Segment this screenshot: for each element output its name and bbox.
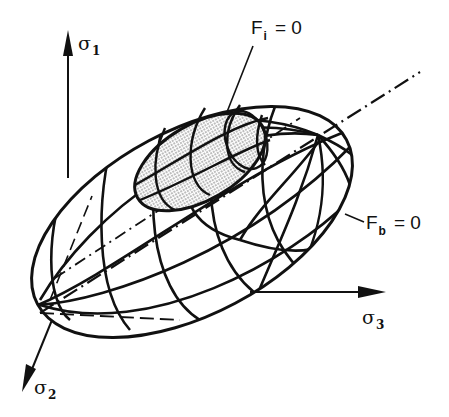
outer-surface-leader (345, 214, 364, 222)
sigma2-label: σ2 (34, 378, 56, 397)
arrowhead-up-icon (63, 30, 73, 56)
outer-failure-surface (0, 59, 390, 386)
outer-surface-label: Fb= 0 (366, 213, 421, 232)
outer-surface-symbol: F (366, 212, 378, 233)
sigma3-label: σ3 (362, 308, 384, 327)
sigma1-symbol: σ (78, 32, 91, 54)
sigma3-axis (250, 286, 386, 298)
sigma3-subscript: 3 (376, 318, 384, 332)
sigma2-symbol: σ (34, 376, 47, 398)
inner-surface-subscript: i (264, 29, 267, 43)
sigma3-symbol: σ (362, 306, 375, 328)
sigma1-label: σ1 (78, 34, 100, 53)
hydrostatic-axis (40, 72, 420, 320)
diagram-drawing (0, 0, 449, 417)
sigma1-subscript: 1 (92, 44, 100, 58)
inner-surface-equation: = 0 (275, 17, 302, 38)
inner-surface-symbol: F (251, 17, 263, 38)
stress-space-diagram: σ1 σ2 σ3 Fi= 0 Fb= 0 (0, 0, 449, 417)
sigma1-axis (63, 30, 73, 178)
inner-surface-label: Fi= 0 (251, 18, 302, 37)
arrowhead-right-icon (358, 286, 386, 298)
outer-surface-subscript: b (379, 224, 386, 238)
inner-surface-leader (227, 46, 253, 112)
sigma2-subscript: 2 (48, 388, 56, 402)
outer-surface-equation: = 0 (394, 212, 421, 233)
